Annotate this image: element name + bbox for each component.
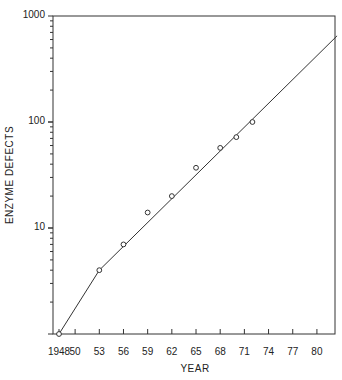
x-tick-label: 62 xyxy=(166,346,178,357)
x-tick-label: 53 xyxy=(94,346,106,357)
x-tick-label: 50 xyxy=(70,346,82,357)
data-point xyxy=(169,194,174,199)
data-point xyxy=(234,135,239,140)
plot-frame xyxy=(53,16,335,334)
x-tick-label: 77 xyxy=(287,346,299,357)
data-point xyxy=(97,268,102,273)
data-point xyxy=(145,210,150,215)
x-tick-label: 71 xyxy=(239,346,251,357)
data-point xyxy=(121,242,126,247)
x-tick-label: 59 xyxy=(142,346,154,357)
x-tick-label: 80 xyxy=(311,346,323,357)
data-point xyxy=(218,145,223,150)
y-axis-title: ENZYME DEFECTS xyxy=(4,126,15,224)
x-tick-label: 74 xyxy=(263,346,275,357)
x-axis-title: YEAR xyxy=(180,363,209,374)
x-tick-label: 1948 xyxy=(48,346,71,357)
data-point xyxy=(250,120,255,125)
x-tick-label: 65 xyxy=(190,346,202,357)
x-tick-label: 56 xyxy=(118,346,130,357)
data-point xyxy=(57,332,62,337)
y-tick-label: 1000 xyxy=(23,9,46,20)
trend-line xyxy=(59,36,337,334)
x-tick-label: 68 xyxy=(215,346,227,357)
y-tick-label: 100 xyxy=(28,115,45,126)
data-point xyxy=(194,165,199,170)
y-tick-label: 10 xyxy=(34,221,46,232)
enzyme-defects-chart: 10001001019485053565962656871747780YEARE… xyxy=(0,0,342,380)
